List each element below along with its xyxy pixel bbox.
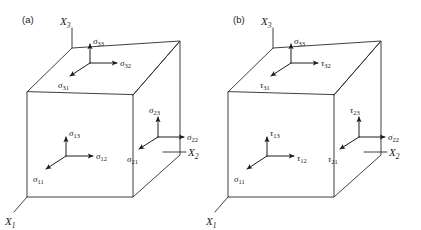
panel-a-label: (a)	[22, 14, 34, 25]
stress-element-figure: (a) X3 X2 X1 σ33 σ32	[0, 0, 421, 230]
panel-b-label: (b)	[233, 14, 245, 25]
